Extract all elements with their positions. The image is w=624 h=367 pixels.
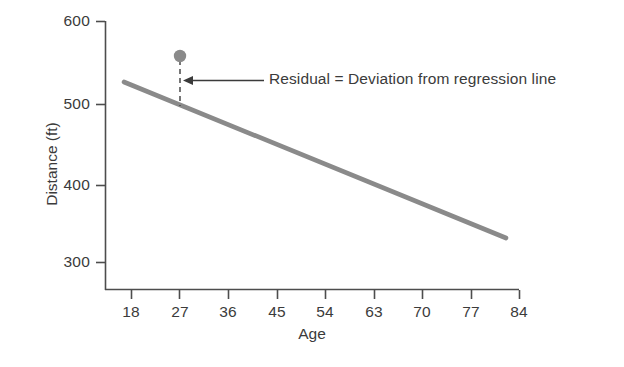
x-tick-label-18: 18 (122, 303, 140, 321)
chart-figure: 600 500 400 300 18 27 36 45 54 63 70 77 … (0, 0, 624, 367)
y-tick-label-600: 600 (40, 12, 90, 30)
y-axis-ticks (96, 22, 105, 263)
x-tick-label-77: 77 (462, 303, 480, 321)
x-tick-label-36: 36 (219, 303, 237, 321)
y-tick-label-300: 300 (40, 253, 90, 271)
y-axis-title: Distance (ft) (43, 94, 61, 234)
annotation-arrowhead-icon (183, 76, 193, 85)
x-tick-label-45: 45 (268, 303, 286, 321)
x-tick-label-63: 63 (365, 303, 383, 321)
x-axis-ticks (132, 290, 520, 299)
regression-line (124, 82, 506, 238)
x-tick-label-70: 70 (413, 303, 431, 321)
x-tick-label-27: 27 (171, 303, 189, 321)
residual-annotation-label: Residual = Deviation from regression lin… (269, 70, 556, 88)
x-axis-title: Age (272, 325, 352, 343)
x-tick-label-54: 54 (316, 303, 334, 321)
x-tick-label-84: 84 (510, 303, 528, 321)
chart-plot-area (0, 0, 624, 367)
data-point-marker (174, 50, 186, 62)
